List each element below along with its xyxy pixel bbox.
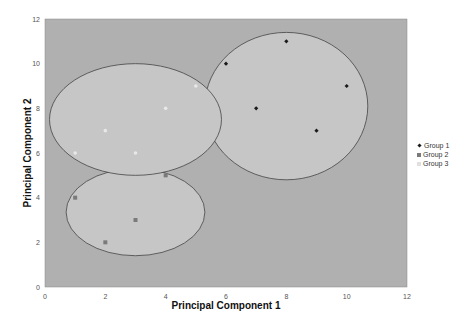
legend-item-group-2: Group 2 <box>417 150 449 159</box>
cluster-ellipse <box>50 64 222 176</box>
y-tick-label: 6 <box>36 150 40 157</box>
diamond-marker-icon <box>417 143 421 147</box>
data-point <box>134 218 138 222</box>
y-tick-label: 0 <box>36 284 40 291</box>
cluster-ellipse <box>66 169 205 256</box>
cluster-ellipse <box>205 32 368 179</box>
legend-label: Group 1 <box>424 141 449 150</box>
y-tick-label: 4 <box>36 194 40 201</box>
legend-item-group-1: Group 1 <box>417 141 449 150</box>
data-point <box>164 107 168 111</box>
y-axis-title: Principal Component 2 <box>22 98 33 207</box>
x-tick-label: 0 <box>43 293 47 300</box>
y-tick-label: 2 <box>36 239 40 246</box>
x-tick-label: 10 <box>343 293 351 300</box>
x-tick-label: 2 <box>103 293 107 300</box>
x-tick-label: 6 <box>224 293 228 300</box>
y-tick-label: 8 <box>36 105 40 112</box>
y-tick-label: 10 <box>32 60 40 67</box>
x-tick-label: 12 <box>403 293 411 300</box>
data-point <box>73 196 77 200</box>
data-point <box>73 151 77 155</box>
triangle-marker-icon <box>417 162 421 166</box>
square-marker-icon <box>417 153 421 157</box>
data-point <box>104 129 108 133</box>
data-point <box>134 151 138 155</box>
y-tick-label: 12 <box>32 16 40 23</box>
y-axis-ticks: 024681012 <box>32 16 40 291</box>
data-point <box>103 240 107 244</box>
scatter-chart: 024681012 024681012 Principal Component … <box>0 0 471 324</box>
x-axis-title: Principal Component 1 <box>172 300 281 311</box>
data-point <box>164 173 168 177</box>
data-point <box>194 84 198 88</box>
legend-item-group-3: Group 3 <box>417 159 449 168</box>
legend: Group 1 Group 2 Group 3 <box>417 141 449 168</box>
x-tick-label: 8 <box>284 293 288 300</box>
x-axis-ticks: 024681012 <box>43 293 411 300</box>
x-tick-label: 4 <box>164 293 168 300</box>
legend-label: Group 3 <box>423 159 448 168</box>
legend-label: Group 2 <box>423 150 448 159</box>
